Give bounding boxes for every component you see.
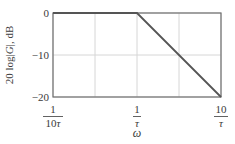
y-tick-label: −10 bbox=[32, 49, 50, 61]
y-axis-label-prefix: 20 log| bbox=[3, 54, 15, 84]
x-tick-label: 110τ bbox=[43, 103, 63, 129]
bode-magnitude-chart: 0−10−20 110τ1τ10τ 20 log|G|, dB ω bbox=[0, 0, 235, 144]
y-axis-label-g: G bbox=[3, 46, 15, 54]
x-tick-denominator: τ bbox=[219, 117, 224, 129]
x-tick-label: 10τ bbox=[214, 103, 228, 129]
x-tick-denominator: 10τ bbox=[46, 117, 62, 129]
x-tick-numerator: 10 bbox=[216, 103, 228, 115]
y-axis-label: 20 log|G|, dB bbox=[3, 26, 15, 85]
y-tick-labels: 0−10−20 bbox=[32, 7, 50, 103]
x-axis-label: ω bbox=[133, 126, 141, 140]
x-tick-numerator: 1 bbox=[134, 103, 140, 115]
y-axis-label-suffix: |, dB bbox=[3, 26, 15, 47]
y-tick-label: −20 bbox=[32, 91, 50, 103]
y-tick-label: 0 bbox=[44, 7, 50, 19]
x-tick-numerator: 1 bbox=[50, 103, 56, 115]
grid bbox=[53, 13, 221, 97]
